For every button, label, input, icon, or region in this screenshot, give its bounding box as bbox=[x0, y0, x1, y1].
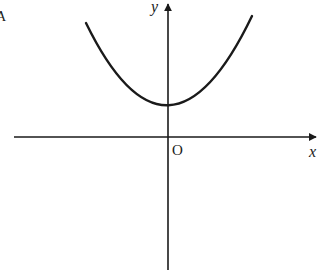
stray-mark: A bbox=[0, 9, 7, 24]
origin-label: O bbox=[172, 142, 183, 158]
x-axis-label: x bbox=[308, 143, 316, 160]
parabola-curve bbox=[86, 16, 252, 105]
function-graph: A y O x bbox=[0, 0, 325, 270]
y-axis-label: y bbox=[149, 0, 159, 16]
